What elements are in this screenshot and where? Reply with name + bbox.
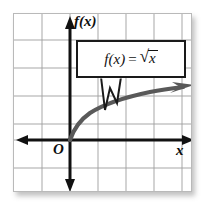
y-axis-down-arrowhead [65,179,75,192]
radicand-label: x [148,50,158,66]
origin-label: O [53,141,64,158]
y-axis [65,16,75,192]
sqrt-curve [70,82,194,140]
x-axis [16,135,194,145]
equation-callout: f(x) = √ x [76,40,186,78]
equation-equals-sign: = [127,51,137,68]
x-axis-left-arrowhead [16,135,28,145]
y-axis-label: f(x) [74,13,97,30]
x-axis-label: x [176,142,184,159]
equation-function-label: f(x) [104,51,125,68]
equation-text: f(x) = √ x [104,51,157,68]
square-root-function-figure: f(x) = √ x f(x) x O [0,0,209,214]
radical-expression: √ x [140,51,158,67]
graph-canvas [0,0,209,214]
